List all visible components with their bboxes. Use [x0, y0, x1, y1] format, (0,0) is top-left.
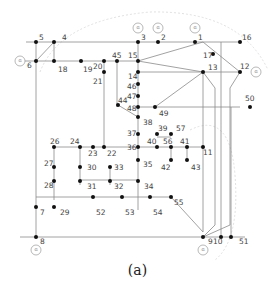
svg-text:23: 23 [88, 149, 98, 158]
svg-text:8: 8 [40, 237, 45, 246]
generator-icon-bus-2: G [153, 23, 163, 33]
svg-text:19: 19 [83, 65, 93, 74]
svg-text:3: 3 [141, 33, 146, 42]
svg-text:48: 48 [127, 104, 137, 113]
svg-text:56: 56 [163, 137, 173, 146]
svg-text:G: G [193, 25, 196, 30]
svg-text:5: 5 [39, 33, 44, 42]
svg-text:2: 2 [161, 33, 166, 42]
svg-text:52: 52 [96, 208, 106, 217]
svg-text:28: 28 [44, 181, 54, 190]
svg-text:40: 40 [147, 137, 157, 146]
svg-text:18: 18 [58, 65, 68, 74]
svg-text:33: 33 [114, 163, 124, 172]
generator-icon-bus-3: G [133, 23, 143, 33]
svg-text:20: 20 [93, 62, 103, 71]
network-diagram: G G G G G G G 1 2 3 4 5 6 7 8 9 10 11 12… [0, 0, 275, 290]
svg-text:36: 36 [127, 143, 137, 152]
svg-text:1: 1 [198, 33, 203, 42]
svg-text:46: 46 [127, 82, 137, 91]
svg-text:16: 16 [242, 33, 252, 42]
svg-text:31: 31 [87, 182, 97, 191]
svg-text:14: 14 [128, 72, 138, 81]
svg-text:55: 55 [174, 198, 184, 207]
svg-text:41: 41 [180, 137, 190, 146]
generator-icon-bus-8: G [31, 245, 41, 255]
svg-text:G: G [34, 247, 37, 252]
svg-text:26: 26 [50, 137, 60, 146]
svg-text:32: 32 [114, 182, 124, 191]
svg-text:57: 57 [176, 124, 186, 133]
svg-text:42: 42 [161, 163, 171, 172]
svg-text:43: 43 [191, 163, 201, 172]
svg-text:G: G [254, 69, 257, 74]
svg-text:G: G [156, 25, 159, 30]
svg-text:37: 37 [127, 129, 137, 138]
svg-text:11: 11 [203, 148, 213, 157]
svg-text:49: 49 [159, 109, 169, 118]
svg-text:10: 10 [213, 237, 223, 246]
svg-text:24: 24 [70, 137, 80, 146]
svg-text:50: 50 [245, 94, 255, 103]
svg-text:30: 30 [87, 163, 97, 172]
svg-text:13: 13 [208, 63, 218, 72]
svg-text:38: 38 [143, 118, 153, 127]
svg-text:22: 22 [107, 149, 117, 158]
svg-text:29: 29 [60, 208, 70, 217]
svg-text:27: 27 [44, 159, 54, 168]
svg-text:7: 7 [40, 208, 45, 217]
generator-icon-bus-12: G [251, 67, 261, 77]
svg-text:51: 51 [239, 237, 249, 246]
svg-text:34: 34 [144, 182, 154, 191]
svg-text:G: G [18, 58, 21, 63]
figure-caption: (a) [0, 262, 275, 278]
generator-icon-bus-1: G [190, 23, 200, 33]
svg-text:G: G [201, 247, 204, 252]
svg-text:21: 21 [93, 77, 103, 86]
generator-icon-bus-6: G [15, 56, 25, 66]
generator-icon-bus-9: G [198, 245, 208, 255]
svg-text:45: 45 [112, 51, 122, 60]
svg-text:47: 47 [127, 92, 137, 101]
svg-text:39: 39 [158, 124, 168, 133]
svg-text:53: 53 [125, 208, 135, 217]
svg-text:15: 15 [128, 51, 138, 60]
svg-text:6: 6 [27, 61, 32, 70]
svg-text:12: 12 [240, 62, 250, 71]
svg-text:35: 35 [143, 160, 153, 169]
svg-text:4: 4 [62, 33, 67, 42]
svg-text:17: 17 [203, 51, 213, 60]
svg-text:G: G [136, 25, 139, 30]
svg-text:54: 54 [153, 208, 163, 217]
